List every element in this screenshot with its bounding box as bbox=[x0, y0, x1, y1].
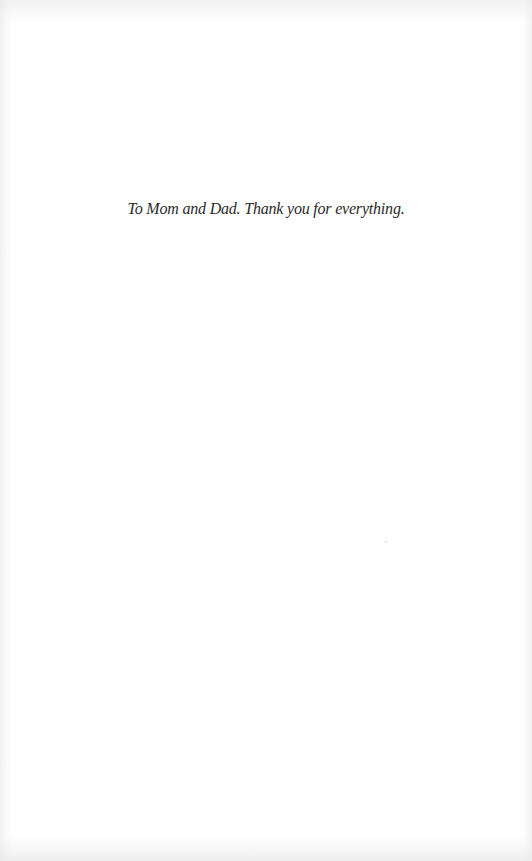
book-page: To Mom and Dad. Thank you for everything… bbox=[0, 0, 532, 861]
scan-edge-left bbox=[0, 0, 10, 861]
dedication-line: To Mom and Dad. Thank you for everything… bbox=[128, 200, 405, 217]
scan-edge-right bbox=[524, 0, 532, 861]
scan-speck bbox=[385, 541, 387, 543]
scan-edge-bottom bbox=[0, 837, 532, 861]
dedication-text: To Mom and Dad. Thank you for everything… bbox=[0, 199, 532, 219]
scan-edge-top bbox=[0, 0, 532, 22]
